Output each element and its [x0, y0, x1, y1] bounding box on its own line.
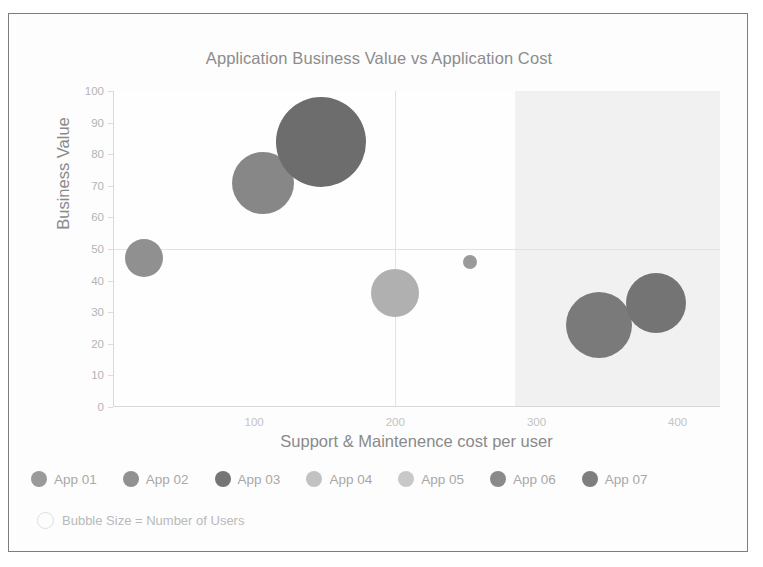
- bubble-size-note-label: Bubble Size = Number of Users: [62, 513, 244, 528]
- legend-label: App 07: [605, 472, 648, 487]
- y-tick-mark: [108, 91, 113, 92]
- y-tick-label: 100: [85, 85, 104, 97]
- legend-item-app-01[interactable]: App 01: [31, 471, 97, 487]
- x-axis-line: [113, 406, 720, 407]
- bubble-app-06[interactable]: [566, 292, 632, 358]
- bubble-app-05[interactable]: [463, 255, 477, 269]
- y-tick-mark: [108, 407, 113, 408]
- legend-label: App 05: [421, 472, 464, 487]
- legend-item-app-07[interactable]: App 07: [582, 471, 648, 487]
- y-tick-label: 60: [91, 211, 104, 223]
- y-tick-label: 40: [91, 275, 104, 287]
- x-tick-label: 300: [527, 416, 546, 428]
- legend-label: App 01: [54, 472, 97, 487]
- chart-frame: Application Business Value vs Applicatio…: [8, 13, 748, 552]
- bubble-app-03[interactable]: [276, 97, 366, 187]
- legend-swatch-icon: [490, 471, 506, 487]
- legend-item-app-02[interactable]: App 02: [123, 471, 189, 487]
- x-tick-label: 400: [668, 416, 687, 428]
- y-tick-mark: [108, 344, 113, 345]
- y-tick-label: 70: [91, 180, 104, 192]
- y-tick-label: 80: [91, 148, 104, 160]
- y-tick-mark: [108, 123, 113, 124]
- legend-item-app-05[interactable]: App 05: [398, 471, 464, 487]
- legend-label: App 04: [329, 472, 372, 487]
- y-tick-mark: [108, 217, 113, 218]
- x-axis-title: Support & Maintenence cost per user: [113, 432, 720, 451]
- legend-item-app-04[interactable]: App 04: [306, 471, 372, 487]
- legend-swatch-icon: [123, 471, 139, 487]
- legend-label: App 02: [146, 472, 189, 487]
- gridline-y-50: [113, 249, 720, 250]
- y-tick-label: 10: [91, 369, 104, 381]
- y-tick-mark: [108, 375, 113, 376]
- plot-area[interactable]: 0102030405060708090100 100200300400: [113, 91, 720, 407]
- y-tick-mark: [108, 154, 113, 155]
- legend-item-app-06[interactable]: App 06: [490, 471, 556, 487]
- legend-swatch-icon: [398, 471, 414, 487]
- legend-swatch-icon: [582, 471, 598, 487]
- x-tick-label: 100: [245, 416, 264, 428]
- y-tick-mark: [108, 186, 113, 187]
- y-axis-line: [113, 91, 114, 407]
- chart-legend: App 01App 02App 03App 04App 05App 06App …: [31, 471, 731, 487]
- y-tick-mark: [108, 249, 113, 250]
- y-tick-label: 30: [91, 306, 104, 318]
- bubble-app-04[interactable]: [371, 269, 419, 317]
- bubble-outline-icon: [37, 512, 54, 529]
- gridline-x-200: [395, 91, 396, 407]
- legend-item-app-03[interactable]: App 03: [215, 471, 281, 487]
- legend-swatch-icon: [306, 471, 322, 487]
- bubble-size-note: Bubble Size = Number of Users: [37, 512, 244, 529]
- y-tick-mark: [108, 281, 113, 282]
- legend-swatch-icon: [215, 471, 231, 487]
- legend-label: App 06: [513, 472, 556, 487]
- legend-swatch-icon: [31, 471, 47, 487]
- bubble-app-01[interactable]: [125, 239, 163, 277]
- y-tick-label: 20: [91, 338, 104, 350]
- y-axis-title: Business Value: [54, 89, 73, 259]
- chart-title: Application Business Value vs Applicatio…: [9, 49, 749, 68]
- y-tick-mark: [108, 312, 113, 313]
- bubble-app-07[interactable]: [626, 273, 686, 333]
- y-tick-label: 90: [91, 117, 104, 129]
- y-tick-label: 50: [91, 243, 104, 255]
- y-tick-label: 0: [98, 401, 104, 413]
- x-tick-label: 200: [386, 416, 405, 428]
- legend-label: App 03: [238, 472, 281, 487]
